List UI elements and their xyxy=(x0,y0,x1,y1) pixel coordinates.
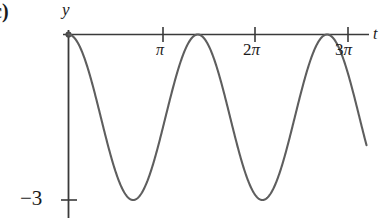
graph-figure: c) y t π 2π 3π −3 xyxy=(0,0,390,218)
x-tick-label-3pi: 3π xyxy=(335,41,352,58)
part-label: c) xyxy=(0,1,9,21)
plot-canvas xyxy=(0,0,390,218)
cosine-curve xyxy=(69,35,367,201)
y-tick-label-neg3: −3 xyxy=(20,188,42,209)
y-axis-label: y xyxy=(62,1,70,18)
x-tick-label-pi: π xyxy=(156,42,164,58)
x-axis-label: t xyxy=(373,26,377,42)
x-tick-label-2pi: 2π xyxy=(243,41,260,58)
